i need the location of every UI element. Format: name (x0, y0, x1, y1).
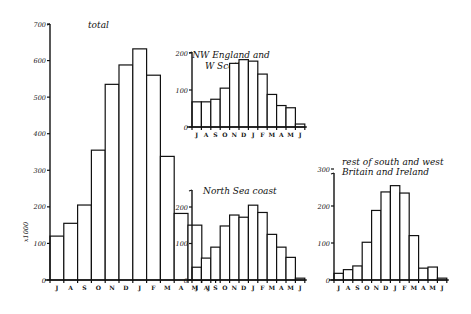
x-tick-label: D (123, 284, 128, 291)
y-tick-label: 200 (175, 204, 188, 212)
x-tick-label: J (194, 131, 198, 139)
y-tick-label: 0 (184, 124, 188, 132)
bar (267, 234, 276, 280)
x-tick-label: F (260, 131, 265, 138)
x-tick-label: F (402, 284, 407, 291)
x-tick-label: M (287, 284, 294, 291)
bar (258, 212, 267, 280)
x-tick-label: D (241, 284, 246, 291)
y-tick-label: 100 (176, 87, 188, 95)
x-tick-label: D (241, 131, 246, 138)
x-tick-label: S (82, 284, 86, 291)
bar (286, 108, 295, 127)
x-tick-label: S (213, 131, 217, 138)
chart-title: rest of south and west (342, 157, 444, 167)
y-tick-label: 100 (34, 240, 46, 248)
bar (119, 65, 133, 280)
x-tick-label: D (383, 284, 388, 291)
bar (133, 49, 147, 280)
x-tick-label: A (278, 131, 284, 138)
x-tick-label: S (213, 284, 217, 291)
bar (277, 106, 286, 127)
y-tick-label: 0 (326, 277, 330, 285)
bar (230, 215, 239, 280)
figure: total0100200300400500600700JASONDJFMAMJ … (0, 0, 471, 314)
y-tick-label: 200 (317, 203, 330, 211)
bar (239, 60, 248, 127)
x-tick-label: A (203, 284, 209, 291)
bar (78, 205, 92, 280)
chart-title: total (88, 20, 109, 30)
x-tick-label: M (164, 284, 171, 291)
x-tick-label: M (411, 284, 418, 291)
x-tick-label: J (137, 284, 141, 292)
x-tick-label: O (96, 284, 101, 291)
x-tick-label: N (232, 284, 238, 291)
bar (64, 223, 78, 280)
bar (343, 270, 352, 280)
bar (258, 74, 267, 127)
bar (239, 217, 248, 280)
x-tick-label: J (298, 131, 302, 139)
y-tick-label: 0 (184, 277, 188, 285)
x-tick-label: A (67, 284, 73, 291)
y-tick-label: 200 (175, 50, 188, 58)
x-tick-label: J (393, 284, 397, 292)
bar (147, 75, 161, 280)
bar (220, 88, 229, 127)
y-tick-label: 100 (318, 240, 330, 248)
x-tick-label: M (269, 284, 276, 291)
x-tick-label: A (420, 284, 426, 291)
x-tick-label: A (345, 284, 351, 291)
x-tick-label: A (203, 131, 209, 138)
chart-title: Britain and Ireland (341, 167, 429, 177)
y-tick-label: 300 (34, 167, 46, 175)
bar (372, 210, 381, 280)
x-tick-label: M (429, 284, 436, 291)
y-tick-label: 500 (34, 94, 46, 102)
x-tick-label: A (178, 284, 184, 291)
bar (211, 99, 220, 127)
bar (390, 186, 399, 280)
x-tick-label: M (269, 131, 276, 138)
bar (105, 84, 119, 280)
bar (201, 258, 210, 280)
bar (50, 236, 64, 280)
x-tick-label: A (278, 284, 284, 291)
bar (267, 94, 276, 127)
bar (211, 247, 220, 280)
bar (201, 102, 210, 127)
x-tick-label: J (251, 131, 255, 139)
bar (400, 193, 409, 280)
x-tick-label: J (251, 284, 255, 292)
bar (286, 257, 295, 280)
y-tick-label: 100 (176, 240, 188, 248)
x-tick-label: M (287, 131, 294, 138)
x-tick-label: J (298, 284, 302, 292)
x-tick-label: N (109, 284, 115, 291)
bar (362, 242, 371, 280)
bar (220, 226, 229, 280)
bar (428, 267, 437, 280)
x-tick-label: F (151, 284, 156, 291)
chart-title: North Sea coast (202, 186, 277, 196)
y-tick-label: 0 (42, 277, 46, 285)
bar (248, 205, 257, 280)
x-tick-label: O (222, 131, 227, 138)
bar (381, 192, 390, 280)
chart-total: total0100200300400500600700JASONDJFMAMJ (33, 20, 218, 292)
y-tick-label: 200 (33, 203, 46, 211)
y-tick-label: 400 (33, 130, 46, 138)
x-tick-label: F (260, 284, 265, 291)
bar (248, 61, 257, 127)
x-tick-label: J (194, 284, 198, 292)
y-axis-label: x1000 (22, 222, 30, 242)
bar (160, 156, 174, 280)
y-tick-label: 700 (34, 21, 46, 29)
x-tick-label: J (440, 284, 444, 292)
bar (409, 236, 418, 280)
bar (277, 247, 286, 280)
x-tick-label: J (54, 284, 58, 292)
bar (419, 268, 428, 280)
x-tick-label: N (374, 284, 380, 291)
